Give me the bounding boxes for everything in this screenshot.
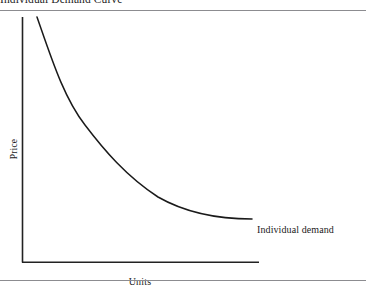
x-axis-label: Units (110, 276, 170, 287)
demand-curve (37, 17, 252, 219)
bottom-divider-rule (0, 280, 366, 281)
y-axis-label: Price (9, 129, 19, 169)
top-divider-rule (0, 10, 366, 11)
plot-area: Price Units Individual demand (0, 12, 366, 274)
figure-title: Individual Demand Curve (0, 0, 122, 6)
figure-root: Individual Demand Curve Price Units Indi… (0, 0, 366, 287)
individual-demand-label: Individual demand (257, 224, 334, 235)
